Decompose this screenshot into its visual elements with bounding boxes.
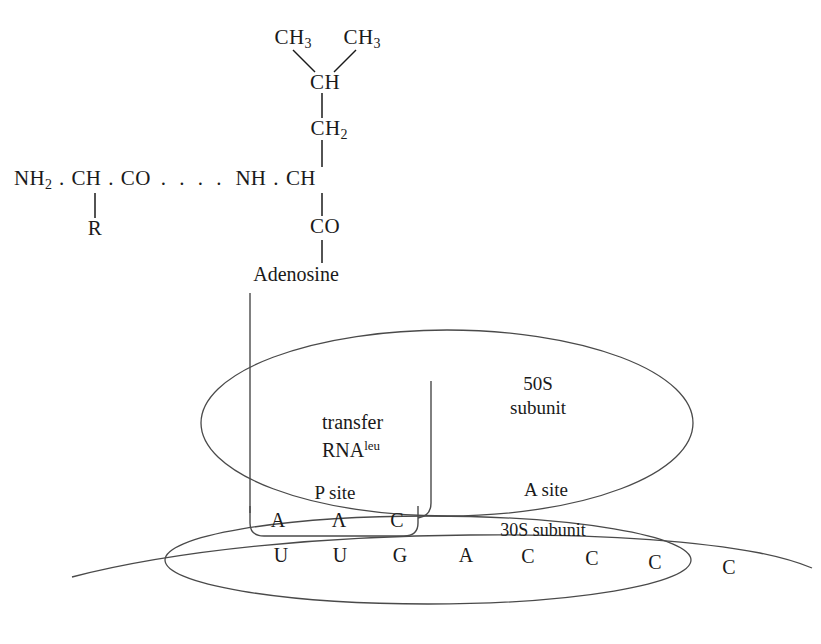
adenosine-label: Adenosine — [253, 264, 339, 284]
p-site-label: P site — [315, 483, 356, 502]
trna-label-line1: transfer — [322, 409, 383, 437]
diagram-vector-layer — [0, 0, 821, 644]
trna-label-line2: RNAleu — [322, 437, 383, 465]
anticodon-base-0: A — [271, 510, 285, 530]
amino-terminus: NH2 — [14, 166, 52, 190]
bond-methyl-right-to-methine — [334, 50, 356, 72]
mrna-base-2: G — [393, 545, 407, 565]
bond-methyl-left-to-methine — [293, 50, 315, 72]
mrna-base-outside-0: C — [722, 557, 735, 577]
methylene-group: CH2 — [311, 118, 348, 142]
methyl-group-left: CH3 — [275, 27, 312, 51]
large-subunit-label: 50S subunit — [510, 372, 566, 421]
amide-nitrogen: NH — [235, 166, 266, 190]
anticodon-base-1: Λ — [332, 510, 347, 530]
mrna-base-1: U — [333, 545, 347, 565]
mrna-base-6: C — [648, 552, 661, 572]
p-site-a-site-divider — [418, 381, 431, 518]
bond-dot-1: . — [52, 166, 72, 190]
r-side-chain-label: R — [88, 218, 102, 239]
methyl-group-right: CH3 — [344, 27, 381, 51]
a-site-label: A site — [524, 480, 568, 499]
alpha-carbon-1: CH — [72, 166, 102, 190]
large-subunit-label-line1: 50S — [510, 372, 566, 396]
mrna-base-3: A — [459, 545, 473, 565]
alpha-carbon-2: CH — [286, 166, 316, 190]
bond-dot-3: . — [266, 166, 286, 190]
carbonyl-group: CO — [310, 216, 340, 237]
peptide-backbone-row: NH2.CH.CO. . . .NH.CH — [14, 168, 316, 192]
small-subunit-label: 30S subunit — [500, 521, 586, 539]
large-subunit-50s-outline — [201, 330, 693, 516]
carbonyl-1: CO — [121, 166, 151, 190]
small-subunit-30s-outline — [165, 516, 691, 604]
anticodon-base-2: C — [390, 510, 403, 530]
large-subunit-label-line2: subunit — [510, 396, 566, 420]
mrna-base-4: C — [521, 546, 534, 566]
methine-group: CH — [310, 72, 340, 93]
mrna-strand — [72, 535, 812, 577]
mrna-base-5: C — [585, 548, 598, 568]
translation-diagram: CH3 CH3 CH CH2 CO Adenosine NH2.CH.CO. .… — [0, 0, 821, 644]
trna-superscript: leu — [364, 438, 380, 453]
mrna-base-0: U — [274, 545, 288, 565]
bond-dot-2: . — [101, 166, 121, 190]
chain-ellipsis: . . . . — [151, 166, 236, 190]
trna-label: transfer RNAleu — [322, 409, 383, 464]
